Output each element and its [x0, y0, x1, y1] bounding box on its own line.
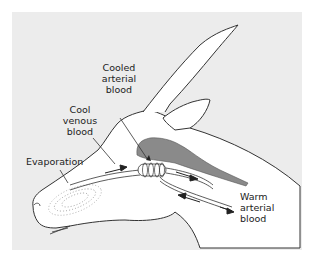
- label-cooled-arterial-blood: Cooled arterial blood: [98, 62, 140, 95]
- label-cool-venous-blood: Cool venous blood: [62, 104, 98, 137]
- label-warm-arterial-blood: Warm arterial blood: [240, 191, 274, 224]
- label-line: Cool: [62, 104, 98, 115]
- label-line: arterial: [240, 202, 274, 213]
- label-line: Warm: [240, 191, 274, 202]
- label-line: arterial: [98, 73, 140, 84]
- label-line: blood: [98, 84, 140, 95]
- label-line: venous: [62, 115, 98, 126]
- label-line: blood: [240, 213, 274, 224]
- label-line: blood: [62, 126, 98, 137]
- label-evaporation: Evaporation: [26, 156, 83, 167]
- carotid-rete: [138, 163, 166, 177]
- diagram-figure: Cooled arterial blood Cool venous blood …: [0, 0, 309, 259]
- label-line: Cooled: [98, 62, 140, 73]
